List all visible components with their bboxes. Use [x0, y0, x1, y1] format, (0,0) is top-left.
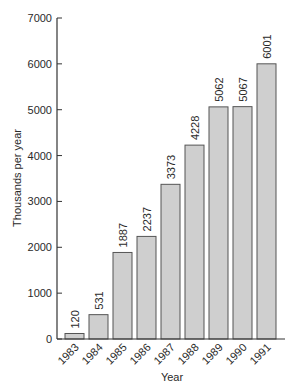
bar-value-label: 5067 [237, 77, 249, 101]
y-tick-label: 0 [46, 333, 52, 345]
x-axis-ticks: 198319841985198619871988198919901991 [55, 341, 273, 367]
bars: 1205311887223733734228506250676001 [65, 34, 276, 339]
bar-value-label: 4228 [189, 116, 201, 140]
y-tick-label: 3000 [28, 195, 52, 207]
y-tick-label: 4000 [28, 150, 52, 162]
y-tick-label: 2000 [28, 241, 52, 253]
bar-value-label: 1887 [117, 223, 129, 247]
y-axis-title: Thousands per year [11, 129, 23, 227]
bar-1989 [209, 107, 228, 339]
bar-chart: 01000200030004000500060007000 1205311887… [0, 0, 293, 389]
y-tick-label: 6000 [28, 58, 52, 70]
bar-1991 [257, 64, 276, 339]
bar-value-label: 5062 [213, 77, 225, 101]
x-tick-label: 1983 [55, 341, 81, 367]
bar-value-label: 531 [93, 291, 105, 309]
bar-1984 [89, 315, 108, 339]
y-tick-label: 7000 [28, 12, 52, 24]
x-axis-title: Year [161, 371, 184, 383]
x-tick-label: 1986 [127, 341, 153, 367]
bar-value-label: 2237 [141, 207, 153, 231]
bar-value-label: 3373 [165, 155, 177, 179]
x-tick-label: 1988 [175, 341, 201, 367]
bar-value-label: 6001 [261, 34, 273, 58]
bar-1986 [137, 236, 156, 339]
bar-1988 [185, 145, 204, 339]
x-tick-label: 1989 [199, 341, 225, 367]
bar-1987 [161, 184, 180, 339]
bar-1990 [233, 107, 252, 339]
x-tick-label: 1985 [103, 341, 129, 367]
bar-1983 [65, 333, 84, 339]
x-tick-label: 1991 [247, 341, 273, 367]
x-tick-label: 1987 [151, 341, 177, 367]
bar-1985 [113, 252, 132, 339]
x-tick-label: 1990 [223, 341, 249, 367]
bar-value-label: 120 [69, 310, 81, 328]
y-tick-label: 5000 [28, 104, 52, 116]
x-tick-label: 1984 [79, 341, 105, 367]
y-tick-label: 1000 [28, 287, 52, 299]
